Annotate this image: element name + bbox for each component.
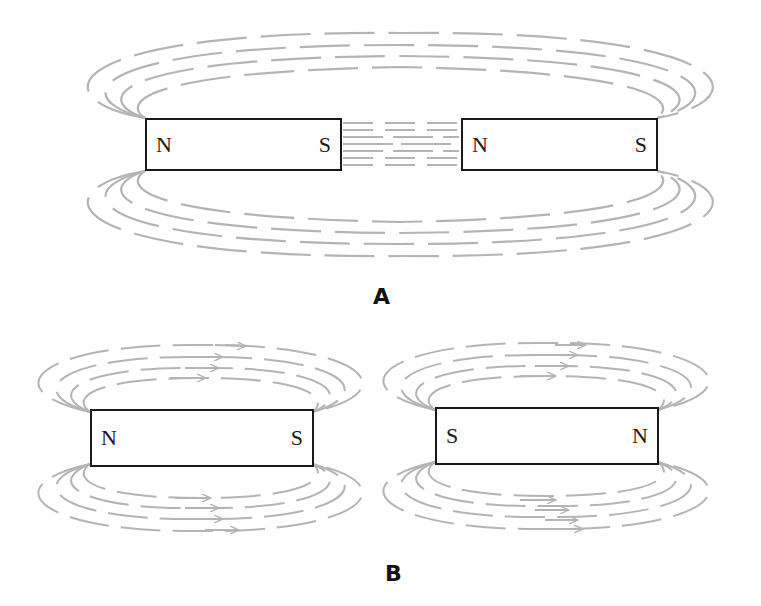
- panel-b-label: B: [385, 561, 402, 586]
- panel-b-magnet-left: N S: [90, 409, 314, 467]
- panel-a-magnet-left: N S: [145, 118, 342, 171]
- south-pole-label: S: [446, 425, 458, 447]
- north-pole-label: N: [101, 427, 117, 449]
- panel-a-gap-lines: [343, 123, 459, 165]
- panel-b-magnet-right: S N: [435, 407, 659, 465]
- south-pole-label: S: [291, 427, 303, 449]
- north-pole-label: N: [472, 134, 488, 156]
- panel-a-magnet-right: N S: [461, 118, 658, 171]
- panel-a-label: A: [373, 284, 390, 309]
- north-pole-label: N: [156, 134, 172, 156]
- south-pole-label: S: [319, 134, 331, 156]
- south-pole-label: S: [635, 134, 647, 156]
- north-pole-label: N: [632, 425, 648, 447]
